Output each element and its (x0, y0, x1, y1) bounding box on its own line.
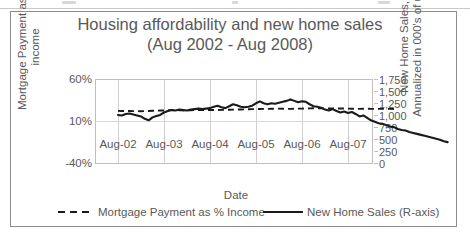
legend-item-mortgage[interactable]: Mortgage Payment as % Income (58, 205, 265, 219)
x-tick-label: Aug-07 (320, 138, 376, 151)
series-canvas (95, 79, 373, 164)
left-tick-label: -40% (54, 157, 92, 169)
right-tick-label: 500 (379, 135, 425, 146)
chart-title: Housing affordability and new home sales… (70, 14, 390, 54)
plot-area (95, 79, 373, 164)
left-axis-title: Mortgage Payment as % income (16, 0, 42, 122)
legend-label: New Home Sales (R-axis) (307, 205, 439, 219)
legend-label: Mortgage Payment as % Income (98, 205, 265, 219)
x-axis-title: Date (186, 189, 286, 201)
right-tick-label: 1,750 (379, 75, 425, 86)
dashed-line-icon (58, 205, 94, 219)
left-tick-label: 10% (54, 115, 92, 127)
right-tick-label: 250 (379, 147, 425, 158)
left-tick-label: 60% (54, 73, 92, 85)
right-tick-label: 1,000 (379, 111, 425, 122)
right-tick-label: 0 (379, 159, 425, 170)
solid-line-icon (263, 205, 303, 219)
right-tick-label: 1,500 (379, 87, 425, 98)
chart-title-line1: Housing affordability and new home sales (77, 15, 382, 33)
legend-item-new-home-sales[interactable]: New Home Sales (R-axis) (263, 205, 439, 219)
chart-legend: Mortgage Payment as % Income New Home Sa… (20, 205, 450, 221)
chart-screenshot: Housing affordability and new home sales… (0, 0, 470, 245)
series-line-mortgage-payment (118, 108, 394, 111)
chart-title-line2: (Aug 2002 - Aug 2008) (70, 34, 390, 54)
right-tick-label: 1,250 (379, 99, 425, 110)
